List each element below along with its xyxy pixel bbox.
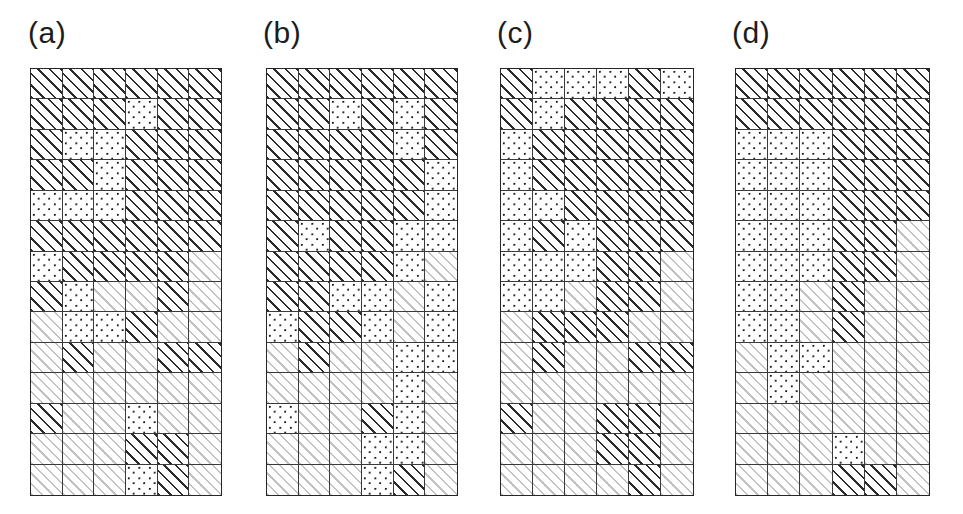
grid-cell bbox=[362, 191, 394, 221]
grid-cell bbox=[565, 191, 597, 221]
grid-cell bbox=[126, 221, 158, 251]
grid-cell bbox=[629, 343, 661, 373]
grid-cell bbox=[94, 130, 126, 160]
grid-cell bbox=[267, 373, 299, 403]
grid-cell bbox=[629, 282, 661, 312]
grid-cell bbox=[126, 160, 158, 190]
grid-cell bbox=[865, 69, 897, 99]
grid-cell bbox=[533, 69, 565, 99]
grid-cell bbox=[394, 282, 426, 312]
grid-cell bbox=[94, 160, 126, 190]
grid-cell bbox=[865, 282, 897, 312]
grid-cell bbox=[597, 99, 629, 129]
grid-cell bbox=[800, 373, 832, 403]
grid-cell bbox=[189, 404, 221, 434]
grid-cell bbox=[299, 434, 331, 464]
grid-cell bbox=[63, 312, 95, 342]
grid-cell bbox=[736, 404, 768, 434]
grid-cell bbox=[661, 160, 693, 190]
grid-cell bbox=[330, 191, 362, 221]
grid-cell bbox=[362, 465, 394, 495]
grid-cell bbox=[126, 404, 158, 434]
grid-cell bbox=[189, 191, 221, 221]
grid-cell bbox=[897, 252, 929, 282]
grid-cell bbox=[768, 191, 800, 221]
grid-cell bbox=[501, 312, 533, 342]
grid-cell bbox=[661, 434, 693, 464]
grid-cell bbox=[533, 373, 565, 403]
grid-cell bbox=[158, 465, 190, 495]
grid-cell bbox=[267, 465, 299, 495]
grid-cell bbox=[800, 465, 832, 495]
grid-cell bbox=[501, 465, 533, 495]
grid-cell bbox=[158, 191, 190, 221]
grid-cell bbox=[865, 434, 897, 464]
grid-cell bbox=[800, 282, 832, 312]
grid-cell bbox=[629, 99, 661, 129]
grid-panel-c bbox=[500, 68, 694, 496]
grid-cell bbox=[31, 191, 63, 221]
grid-cell bbox=[533, 130, 565, 160]
grid-cell bbox=[362, 99, 394, 129]
grid-cell bbox=[736, 465, 768, 495]
grid-cell bbox=[330, 221, 362, 251]
grid-cell bbox=[565, 69, 597, 99]
grid-cell bbox=[425, 221, 457, 251]
grid-cell bbox=[267, 252, 299, 282]
grid-panel-d bbox=[735, 68, 930, 496]
grid-cell bbox=[362, 69, 394, 99]
grid-cell bbox=[501, 404, 533, 434]
grid-cell bbox=[158, 221, 190, 251]
grid-cell bbox=[425, 343, 457, 373]
grid-cell bbox=[736, 130, 768, 160]
grid-cell bbox=[661, 191, 693, 221]
grid-cell bbox=[425, 434, 457, 464]
grid-cell bbox=[425, 312, 457, 342]
grid-cell bbox=[597, 282, 629, 312]
grid-cell bbox=[597, 69, 629, 99]
grid-cell bbox=[31, 252, 63, 282]
grid-cell bbox=[597, 312, 629, 342]
grid-cell bbox=[661, 465, 693, 495]
grid-cell bbox=[362, 160, 394, 190]
grid-cell bbox=[501, 221, 533, 251]
grid-cell bbox=[501, 343, 533, 373]
grid-cell bbox=[189, 465, 221, 495]
figure-canvas: (a)(b)(c)(d) bbox=[0, 0, 963, 514]
grid-cell bbox=[330, 252, 362, 282]
grid-cell bbox=[94, 434, 126, 464]
grid-cell bbox=[267, 282, 299, 312]
grid-cell bbox=[597, 434, 629, 464]
grid-cell bbox=[189, 373, 221, 403]
grid-panel-a bbox=[30, 68, 222, 496]
grid-cell bbox=[299, 130, 331, 160]
grid-cell bbox=[362, 221, 394, 251]
grid-cell bbox=[63, 404, 95, 434]
grid-cell bbox=[94, 252, 126, 282]
grid-cell bbox=[299, 465, 331, 495]
grid-cell bbox=[736, 373, 768, 403]
grid-cell bbox=[800, 69, 832, 99]
grid-cell bbox=[158, 282, 190, 312]
grid-cell bbox=[189, 130, 221, 160]
grid-cell bbox=[768, 373, 800, 403]
grid-cell bbox=[189, 312, 221, 342]
grid-cell bbox=[158, 373, 190, 403]
grid-cell bbox=[330, 69, 362, 99]
grid-cell bbox=[299, 99, 331, 129]
grid-cell bbox=[565, 160, 597, 190]
grid-cell bbox=[94, 465, 126, 495]
grid-cell bbox=[63, 221, 95, 251]
grid-cell bbox=[330, 312, 362, 342]
grid-cell bbox=[362, 282, 394, 312]
grid-cell bbox=[768, 282, 800, 312]
grid-cell bbox=[736, 312, 768, 342]
grid-cell bbox=[63, 69, 95, 99]
grid-cell bbox=[565, 221, 597, 251]
grid-cell bbox=[597, 373, 629, 403]
grid-cell bbox=[661, 221, 693, 251]
panel-label-d: (d) bbox=[732, 18, 770, 48]
grid-cell bbox=[597, 221, 629, 251]
grid-cell bbox=[299, 69, 331, 99]
grid-cell bbox=[31, 69, 63, 99]
